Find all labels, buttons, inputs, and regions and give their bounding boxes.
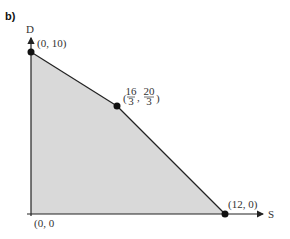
vertex-0-10 bbox=[28, 49, 35, 56]
svg-text:3: 3 bbox=[128, 95, 134, 107]
vertex-12-0 bbox=[222, 211, 229, 218]
feasible-region-diagram: D S (0, 10) (12, 0) (0, 0 ( 16 3 , 20 3 … bbox=[0, 0, 290, 239]
vertex-16-3-20-3 bbox=[114, 103, 121, 110]
svg-text:,: , bbox=[137, 91, 140, 103]
y-axis-label: D bbox=[26, 23, 34, 35]
point-label-0-10: (0, 10) bbox=[37, 37, 67, 50]
origin-label: (0, 0 bbox=[34, 217, 55, 230]
svg-text:3: 3 bbox=[146, 95, 152, 107]
point-label-12-0: (12, 0) bbox=[228, 198, 258, 211]
feasible-region bbox=[31, 52, 225, 214]
svg-text:): ) bbox=[156, 92, 160, 105]
x-axis-label: S bbox=[268, 208, 274, 220]
point-label-16-3-20-3: ( 16 3 , 20 3 ) bbox=[123, 85, 160, 107]
